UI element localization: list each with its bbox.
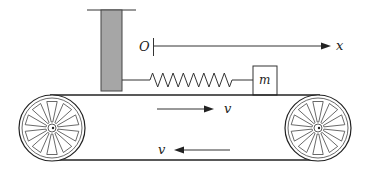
upper-velocity-arrowhead [204, 106, 214, 113]
x-axis-label: x [336, 38, 344, 53]
fixed-wall [101, 10, 122, 91]
upper-velocity-label: v [224, 101, 232, 116]
spring [122, 73, 253, 87]
wheel-axle [52, 127, 54, 129]
lower-velocity-arrowhead [174, 147, 184, 154]
right-pulley-wheel [285, 95, 351, 161]
left-pulley-wheel [19, 95, 85, 161]
x-axis-arrowhead [321, 43, 331, 50]
wheel-axle [318, 127, 320, 129]
conveyor-diagram: O x m v v [0, 0, 372, 171]
origin-label: O [139, 39, 150, 54]
lower-velocity-label: v [158, 142, 166, 157]
mass-label: m [259, 73, 270, 87]
